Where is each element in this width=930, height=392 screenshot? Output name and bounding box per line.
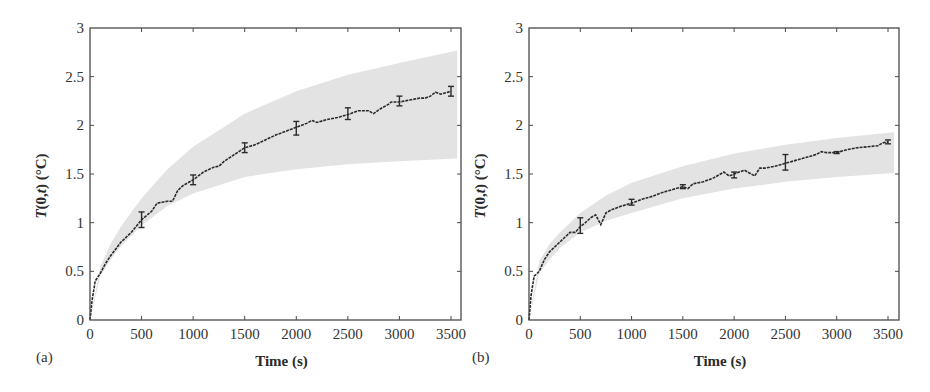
y-tick-label: 0.5 xyxy=(65,263,84,279)
x-tick-label: 3500 xyxy=(436,326,466,342)
x-tick-label: 500 xyxy=(569,326,592,342)
y-tick-label: 2.5 xyxy=(504,69,523,85)
panel-label-a: (a) xyxy=(36,349,53,366)
x-tick-label: 2500 xyxy=(333,326,363,342)
x-tick-label: 3000 xyxy=(822,326,852,342)
x-tick-label: 1000 xyxy=(178,326,208,342)
y-tick-label: 0.5 xyxy=(504,263,523,279)
y-tick-label: 0 xyxy=(516,312,524,328)
y-tick-label: 1.5 xyxy=(65,166,84,182)
y-tick-label: 3 xyxy=(516,20,524,36)
x-tick-label: 500 xyxy=(130,326,153,342)
x-tick-label: 1500 xyxy=(230,326,260,342)
x-tick-label: 3000 xyxy=(384,326,414,342)
y-tick-label: 1 xyxy=(516,215,524,231)
figure-canvas: 0500100015002000250030003500 00.511.522.… xyxy=(0,0,930,392)
x-tick-label: 0 xyxy=(525,326,533,342)
x-axis-title: Time (s) xyxy=(694,353,747,370)
x-tick-label: 2000 xyxy=(719,326,749,342)
y-tick-label: 2.5 xyxy=(65,69,84,85)
x-tick-label: 2000 xyxy=(281,326,311,342)
y-tick-label: 3 xyxy=(77,20,85,36)
x-axis-title: Time (s) xyxy=(255,353,308,370)
y-tick-label: 2 xyxy=(516,117,524,133)
uncertainty-band xyxy=(529,132,894,320)
y-tick-label: 1 xyxy=(77,215,85,231)
x-tick-label: 1000 xyxy=(617,326,647,342)
chart-panel-a: 0500100015002000250030003500 00.511.522.… xyxy=(33,20,466,370)
y-tick-label: 0 xyxy=(77,312,85,328)
x-tick-label: 2500 xyxy=(770,326,800,342)
x-tick-label: 1500 xyxy=(668,326,698,342)
y-tick-label: 1.5 xyxy=(504,166,523,182)
y-axis-title: T(0,t) (°C) xyxy=(472,153,489,218)
uncertainty-band xyxy=(90,50,457,320)
chart-panel-b: 0500100015002000250030003500 00.511.522.… xyxy=(472,20,903,370)
x-tick-label: 0 xyxy=(86,326,94,342)
y-axis-title: T(0,t) (°C) xyxy=(33,153,50,218)
panel-label-b: (b) xyxy=(472,349,490,366)
y-tick-label: 2 xyxy=(77,117,85,133)
x-tick-label: 3500 xyxy=(873,326,903,342)
